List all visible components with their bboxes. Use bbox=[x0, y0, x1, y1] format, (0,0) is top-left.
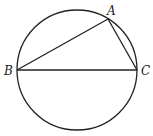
vertex-label-b: B bbox=[3, 64, 13, 78]
geometry-diagram: A B C bbox=[0, 0, 153, 136]
vertex-label-a: A bbox=[106, 4, 116, 18]
vertex-label-c: C bbox=[141, 64, 150, 78]
segment-ba bbox=[17, 19, 108, 70]
segment-ac bbox=[108, 19, 137, 70]
